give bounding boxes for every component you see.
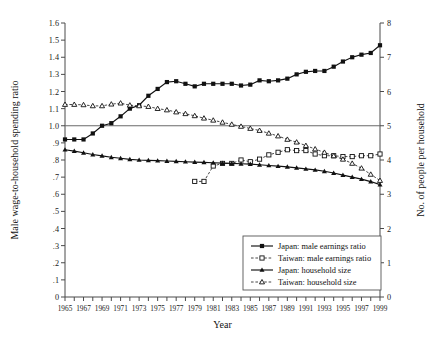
y-ticklabel-left: 1.4	[49, 53, 59, 62]
data-marker	[239, 83, 243, 87]
y-ticklabel-left: 1.1	[49, 105, 59, 114]
data-marker	[164, 107, 169, 111]
data-marker	[378, 152, 382, 156]
data-marker	[248, 83, 252, 87]
data-marker	[127, 103, 132, 107]
data-marker	[359, 53, 363, 57]
data-marker	[285, 77, 289, 81]
y-ticklabel-left: .2	[53, 259, 59, 268]
y-ticklabel-right: 1	[387, 259, 391, 268]
y-ticklabel-left: .4	[53, 225, 59, 234]
data-marker	[229, 122, 234, 126]
x-ticklabel: 1993	[317, 304, 332, 313]
data-marker	[91, 131, 95, 135]
y-ticklabel-left: 1.2	[49, 88, 59, 97]
data-marker	[350, 55, 354, 59]
y-ticklabel-left: 1.6	[49, 19, 59, 28]
data-marker	[62, 147, 67, 151]
y-ticklabel-left: .8	[53, 156, 59, 165]
y-ticklabel-left: .1	[53, 276, 59, 285]
data-marker	[183, 82, 187, 86]
x-ticklabel: 1997	[354, 304, 369, 313]
data-marker	[369, 51, 373, 55]
data-marker	[156, 87, 160, 91]
data-marker	[276, 78, 280, 82]
data-marker	[276, 133, 281, 137]
x-ticklabel: 1969	[95, 304, 110, 313]
data-marker	[260, 244, 264, 248]
data-marker	[183, 111, 188, 115]
x-ticklabel: 1977	[169, 304, 184, 313]
data-marker	[193, 179, 197, 183]
x-axis-title: Year	[213, 319, 232, 330]
y-ticklabel-right: 3	[387, 190, 391, 199]
data-marker	[211, 82, 215, 86]
series-line	[65, 103, 380, 180]
data-marker	[192, 113, 197, 117]
data-marker	[174, 110, 179, 114]
x-ticklabel: 1999	[373, 304, 388, 313]
series-0	[63, 43, 382, 141]
data-marker	[322, 69, 326, 73]
data-marker	[341, 59, 345, 63]
data-marker	[359, 166, 364, 170]
data-marker	[322, 150, 327, 154]
data-marker	[146, 94, 150, 98]
x-ticklabel: 1975	[150, 304, 165, 313]
chart-canvas: 0.1.2.3.4.5.6.7.8.91.01.11.21.31.41.51.6…	[0, 0, 436, 341]
x-ticklabel: 1985	[243, 304, 258, 313]
data-marker	[63, 137, 67, 141]
series-3	[62, 101, 382, 183]
data-marker	[202, 179, 206, 183]
data-marker	[174, 79, 178, 83]
y-ticklabel-left: 1.0	[49, 122, 59, 131]
data-marker	[257, 128, 262, 132]
data-marker	[332, 65, 336, 69]
data-marker	[220, 120, 225, 124]
x-ticklabel: 1991	[299, 304, 314, 313]
data-marker	[276, 150, 280, 154]
data-marker	[109, 102, 114, 106]
data-marker	[257, 78, 261, 82]
x-ticklabel: 1973	[132, 304, 147, 313]
data-marker	[378, 43, 382, 47]
y-axis-title-right: No. of people per household	[415, 103, 426, 217]
y-ticklabel-left: 1.3	[49, 70, 59, 79]
legend-label: Japan: male earnings ratio	[278, 242, 366, 251]
x-ticklabel: 1983	[224, 304, 239, 313]
data-marker	[230, 82, 234, 86]
x-ticklabel: 1967	[76, 304, 91, 313]
data-marker	[350, 154, 354, 158]
x-ticklabel: 1965	[58, 304, 73, 313]
data-marker	[359, 154, 363, 158]
data-marker	[81, 102, 86, 106]
legend-label: Taiwan: household size	[278, 278, 357, 287]
data-marker	[193, 84, 197, 88]
legend-label: Japan: household size	[278, 266, 351, 275]
data-marker	[295, 72, 299, 76]
data-marker	[368, 172, 373, 176]
data-marker	[294, 140, 299, 144]
data-marker	[267, 153, 271, 157]
x-ticklabel: 1989	[280, 304, 295, 313]
y-ticklabel-right: 2	[387, 225, 391, 234]
chart-figure: 0.1.2.3.4.5.6.7.8.91.01.11.21.31.41.51.6…	[0, 0, 436, 341]
y-ticklabel-left: .6	[53, 190, 59, 199]
data-marker	[72, 102, 77, 106]
data-marker	[303, 143, 308, 147]
data-marker	[72, 137, 76, 141]
data-marker	[90, 103, 95, 107]
data-marker	[304, 70, 308, 74]
y-ticklabel-left: .7	[53, 173, 59, 182]
data-marker	[267, 79, 271, 83]
data-marker	[202, 82, 206, 86]
y-ticklabel-right: 4	[387, 156, 391, 165]
data-marker	[155, 106, 160, 110]
data-marker	[350, 161, 355, 165]
y-ticklabel-right: 5	[387, 122, 391, 131]
data-marker	[248, 126, 253, 130]
data-marker	[295, 148, 299, 152]
data-marker	[146, 104, 151, 108]
x-ticklabel: 1987	[262, 304, 277, 313]
data-marker	[377, 178, 382, 182]
